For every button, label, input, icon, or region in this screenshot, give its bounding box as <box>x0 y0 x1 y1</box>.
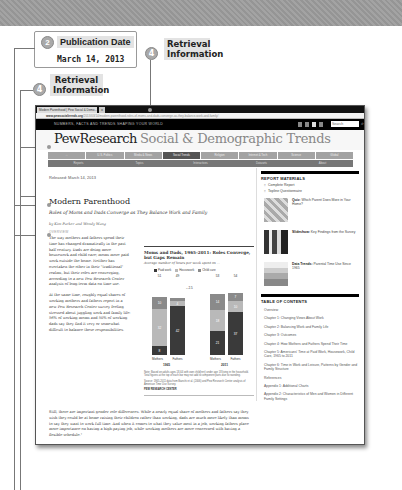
report-materials-heading: REPORT MATERIALS <box>261 176 359 181</box>
social-icon[interactable] <box>298 122 302 127</box>
social-icon[interactable] <box>312 122 316 127</box>
toc-item[interactable]: Chapter 6: Time in Work and Leisure, Pat… <box>261 363 359 372</box>
toc-item[interactable]: References <box>261 376 359 380</box>
connector-dot <box>47 203 51 207</box>
chart-credit: PEW RESEARCH CENTER <box>144 388 254 391</box>
nav-topics[interactable]: Topics <box>109 160 170 167</box>
article-body: The way mothers and fathers spend their … <box>49 236 131 334</box>
nav-religion[interactable]: Religion <box>201 152 238 159</box>
nav-internet[interactable]: Internet & Tech <box>239 152 276 159</box>
chart-plot-area: 51 49 53 54 8 32 10 42 4 – 2.5 21 18 14 … <box>144 274 254 369</box>
toc-item[interactable]: Chapter 3: Outcomes <box>261 333 359 337</box>
connector-line <box>20 90 21 490</box>
site-section-title: Social & Demographic Trends <box>140 131 331 146</box>
data-trends-thumbnail <box>264 262 288 286</box>
article-subtitle: Roles of Moms and Dads Converge as They … <box>49 210 207 215</box>
bar-total: 49 <box>170 274 185 278</box>
rss-icon[interactable] <box>319 122 323 127</box>
document-icon: ▯ <box>264 189 266 193</box>
connector-dot <box>148 108 152 112</box>
search-input[interactable]: Search <box>331 121 359 127</box>
promo-quiz[interactable]: Quiz: Which Parent Does More in Your Hom… <box>261 198 359 222</box>
sidebar-link-topline[interactable]: ▯Topline Questionnaire <box>261 189 359 193</box>
group-label: 1965 <box>163 363 170 367</box>
toc-item[interactable]: Appendix 2: Characteristics of Men and W… <box>261 392 359 401</box>
bar-total: 53 <box>210 274 225 278</box>
bar-label: Fathers <box>170 357 185 361</box>
release-date: Released: March 14, 2013 <box>49 175 96 180</box>
toc-item[interactable]: Appendix 1: Additional Charts <box>261 384 359 388</box>
url-domain: www.pewsocialtrends.org <box>46 114 83 118</box>
bar-total: 51 <box>152 274 167 278</box>
nav-datasets[interactable]: Datasets <box>231 160 292 167</box>
primary-nav: ⌂ U.S. Politics Media & News Social Tren… <box>48 152 353 159</box>
site-logo[interactable]: PewResearch <box>54 131 137 146</box>
section-rule <box>261 294 359 297</box>
callout-number-badge: 2 <box>41 36 54 49</box>
toc-item[interactable]: Chapter 4: How Mothers and Fathers Spend… <box>261 342 359 346</box>
connector-line <box>20 90 33 91</box>
bar-mothers-2011: 21 18 14 <box>210 294 225 355</box>
section-rule <box>261 171 359 174</box>
toc-heading: TABLE OF CONTENTS <box>261 299 359 304</box>
social-icon[interactable] <box>305 122 309 127</box>
chart-annotation: – 2.5 <box>186 286 193 290</box>
group-label: 2011 <box>221 363 228 367</box>
callout-number-badge: 4 <box>33 83 46 96</box>
connector-line <box>14 48 15 490</box>
nav-home[interactable]: ⌂ <box>48 152 85 159</box>
callout-number-badge: 4 <box>145 47 158 60</box>
url-path: /2013/03/14/modern-parenthood-roles-of-m… <box>83 114 218 118</box>
connector-line <box>14 48 35 49</box>
bar-label: Mothers <box>208 357 223 361</box>
nav-media[interactable]: Media & News <box>125 152 162 159</box>
document-icon: ▯ <box>264 183 266 187</box>
paragraph: Still, there are important gender role d… <box>49 410 249 439</box>
legend-item: Housework <box>175 268 194 272</box>
promo-slideshow[interactable]: Slideshow: Key Findings from the Survey <box>261 230 359 254</box>
nav-global[interactable]: Global <box>316 152 353 159</box>
bar-label: Fathers <box>228 357 243 361</box>
sidebar: REPORT MATERIALS ▯Complete Report ▯Topli… <box>256 168 359 401</box>
chart-legend: Paid work Housework Child care <box>144 268 254 272</box>
toc-item[interactable]: Chapter 5: Americans' Time at Paid Work,… <box>261 350 359 359</box>
browser-tab[interactable]: Modern Parenthood | Pew Social & Demo... <box>37 107 97 113</box>
connector-line <box>150 60 151 110</box>
legend-item: Child care <box>198 268 216 272</box>
callout-label: Publication Date <box>57 36 134 48</box>
slideshow-thumbnail <box>264 230 288 254</box>
chart-title: Moms and Dads, 1965-2011: Roles Converge… <box>144 250 254 260</box>
publication-date-callout: 2 Publication Date March 14, 2013 <box>34 31 137 68</box>
chart-source: Source: 1965-2011 data from Bianchi et a… <box>144 380 254 387</box>
bar-total: 54 <box>228 274 243 278</box>
callout-label-line2: Information <box>167 49 207 59</box>
search-icon[interactable]: ⌕ <box>361 120 364 127</box>
toc-item[interactable]: Chapter 1: Changing Views About Work <box>261 316 359 320</box>
site-tagline: NUMBERS, FACTS AND TRENDS SHAPING YOUR W… <box>54 122 163 126</box>
article-body-continued: Still, there are important gender role d… <box>49 410 249 439</box>
nav-reports[interactable]: Reports <box>48 160 109 167</box>
nav-about[interactable]: About <box>292 160 353 167</box>
toc-item[interactable]: Chapter 2: Balancing Work and Family Lif… <box>261 325 359 329</box>
legend-item: Paid work <box>154 268 171 272</box>
callout-label-line1: Retrieval <box>167 39 207 49</box>
publication-date-value: March 14, 2013 <box>57 55 124 64</box>
nav-politics[interactable]: U.S. Politics <box>86 152 123 159</box>
nav-interactives[interactable]: Interactives <box>170 160 231 167</box>
quiz-thumbnail <box>264 198 288 222</box>
nav-social-trends[interactable]: Social Trends <box>163 152 200 159</box>
sidebar-link-complete-report[interactable]: ▯Complete Report <box>261 183 359 187</box>
site-masthead: PewResearch Social & Demographic Trends <box>36 130 364 150</box>
toc-item[interactable]: Overview <box>261 308 359 312</box>
secondary-nav: Reports Topics Interactives Datasets Abo… <box>48 160 353 167</box>
bar-fathers-1965: 42 4 <box>170 298 185 355</box>
section-label: OVERVIEW <box>49 230 69 234</box>
paragraph: The way mothers and fathers spend their … <box>49 236 131 288</box>
nav-science[interactable]: Science <box>278 152 315 159</box>
paragraph: At the same time, roughly equal shares o… <box>49 293 131 334</box>
promo-data-trends[interactable]: Data Trends: Parental Time Use Since 196… <box>261 262 359 286</box>
bar-mothers-1965: 8 32 10 <box>152 297 167 355</box>
article-title: Modern Parenthood <box>49 197 130 206</box>
bar-label: Mothers <box>150 357 165 361</box>
tab-close-icon[interactable]: x <box>99 107 105 113</box>
